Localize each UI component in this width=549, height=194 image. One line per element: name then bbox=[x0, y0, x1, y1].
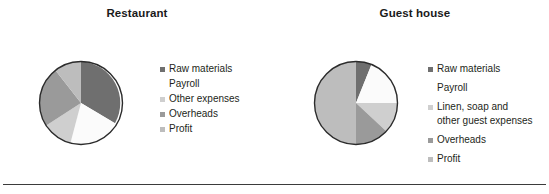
legend-swatch-icon bbox=[160, 67, 165, 72]
legend-item-linen-soap[interactable]: Linen, soap and other guest expenses bbox=[428, 100, 533, 128]
legend-item-profit[interactable]: Profit bbox=[428, 152, 533, 166]
legend-swatch-icon bbox=[160, 127, 165, 132]
pie-chart-figure: Restaurant Raw materials bbox=[0, 0, 549, 194]
legend-swatch-icon bbox=[160, 82, 165, 87]
legend-item-overheads[interactable]: Overheads bbox=[428, 133, 533, 147]
chart-panel-restaurant: Restaurant Raw materials bbox=[0, 0, 274, 178]
chart-title-guest-house: Guest house bbox=[275, 7, 549, 19]
legend-label: Payroll bbox=[437, 81, 468, 95]
legend-swatch-icon bbox=[428, 138, 433, 143]
legend-swatch-icon bbox=[428, 67, 433, 72]
legend-label: Raw materials bbox=[169, 62, 232, 76]
legend-label: Profit bbox=[437, 152, 460, 166]
legend-guest-house: Raw materials Payroll Linen, soap and ot… bbox=[428, 62, 533, 171]
legend-swatch-icon bbox=[428, 157, 433, 162]
legend-restaurant: Raw materials Payroll Other expenses Ove… bbox=[160, 62, 240, 137]
legend-item-other-expenses[interactable]: Other expenses bbox=[160, 92, 240, 106]
legend-item-raw-materials[interactable]: Raw materials bbox=[160, 62, 240, 76]
pie-guest-house-svg bbox=[313, 60, 399, 146]
pie-slice-profit bbox=[315, 62, 356, 145]
legend-label: Overheads bbox=[437, 133, 486, 147]
legend-label: Raw materials bbox=[437, 62, 500, 76]
chart-panel-guest-house: Guest house Raw materials bbox=[275, 0, 549, 178]
legend-item-profit[interactable]: Profit bbox=[160, 122, 240, 136]
legend-label: Other expenses bbox=[169, 92, 240, 106]
legend-item-payroll[interactable]: Payroll bbox=[428, 81, 533, 95]
legend-label: Profit bbox=[169, 122, 192, 136]
legend-swatch-icon bbox=[160, 97, 165, 102]
legend-swatch-icon bbox=[428, 86, 433, 91]
legend-swatch-icon bbox=[160, 112, 165, 117]
bottom-divider bbox=[3, 184, 546, 185]
legend-item-payroll[interactable]: Payroll bbox=[160, 77, 240, 91]
legend-label: Payroll bbox=[169, 77, 200, 91]
legend-swatch-icon bbox=[428, 105, 433, 110]
pie-restaurant bbox=[38, 60, 124, 146]
legend-label: Linen, soap and other guest expenses bbox=[437, 100, 533, 128]
legend-item-raw-materials[interactable]: Raw materials bbox=[428, 62, 533, 76]
legend-item-overheads[interactable]: Overheads bbox=[160, 107, 240, 121]
chart-title-restaurant: Restaurant bbox=[0, 7, 274, 19]
legend-label: Overheads bbox=[169, 107, 218, 121]
pie-guest-house bbox=[313, 60, 399, 146]
pie-restaurant-svg bbox=[38, 60, 124, 146]
